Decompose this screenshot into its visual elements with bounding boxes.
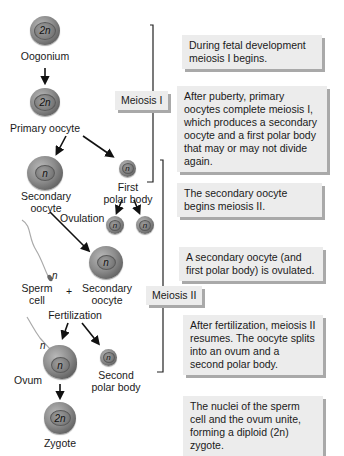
second-polar-body-label: Second polar body (88, 369, 144, 393)
sperm-ploidy: n (52, 270, 58, 282)
polar-body-b-cell: n (136, 216, 154, 234)
ploidy-label: n (57, 360, 63, 371)
meiosis-2-tag: Meiosis II (146, 286, 202, 305)
polar-body-a-cell: n (106, 216, 124, 234)
ovum-cell: n (43, 345, 77, 379)
second-polar-body-nucleus: n (103, 352, 115, 363)
meiosis-1-tag: Meiosis I (115, 91, 168, 110)
label-line: Secondary (18, 190, 74, 202)
description-after-fertilization: After fertilization, meiosis II resumes.… (183, 315, 323, 375)
description-fetal-development: During fetal development meiosis I begin… (182, 35, 322, 69)
oogonium-cell: 2n (30, 16, 60, 45)
ovulated-secondary-oocyte-nucleus: n (97, 255, 116, 270)
ploidy-label: n (103, 257, 109, 268)
primary-oocyte-nucleus: 2n (34, 94, 56, 111)
polar-body-a-nucleus: n (109, 220, 121, 231)
ovulated-secondary-oocyte-label: Secondary oocyte (80, 282, 134, 306)
label-line: cell (20, 294, 54, 306)
ploidy-label: n (106, 353, 110, 362)
description-nuclei-unite: The nuclei of the sperm cell and the ovu… (183, 396, 323, 456)
ploidy-label: 2n (39, 97, 50, 108)
zygote-cell: 2n (44, 402, 76, 434)
plus-sign: + (66, 285, 72, 297)
description-secondary-begins-meiosis-2: The secondary oocyte begins meiosis II. (177, 183, 322, 217)
description-after-puberty: After puberty, primary oocytes complete … (177, 86, 327, 172)
label-line: oocyte (80, 294, 134, 306)
primary-oocyte-label: Primary oocyte (5, 122, 85, 134)
secondary-oocyte-nucleus: n (35, 165, 55, 181)
oogonium-label: Oogonium (17, 50, 73, 62)
first-polar-body-cell: n (119, 160, 136, 177)
secondary-oocyte-label: Secondary oocyte (18, 190, 74, 214)
fertilization-label: Fertilization (47, 309, 103, 321)
ovulation-label: Ovulation (60, 212, 106, 224)
ploidy-label: n (113, 221, 117, 230)
label-line: First (100, 181, 156, 193)
ovum-sperm-ploidy: n (40, 340, 46, 352)
primary-oocyte-cell: 2n (30, 88, 60, 116)
label-line: Secondary (80, 282, 134, 294)
ploidy-label: 2n (54, 413, 65, 424)
zygote-label: Zygote (40, 437, 80, 449)
first-polar-body-nucleus: n (122, 163, 134, 174)
ploidy-label: 2n (39, 25, 50, 36)
description-ovulated: A secondary oocyte (and first polar body… (179, 247, 323, 281)
sperm-cell-label: Sperm cell (20, 282, 54, 306)
oogonium-nucleus: 2n (34, 22, 56, 40)
label-line: Sperm (20, 282, 54, 294)
label-line: polar body (100, 193, 156, 205)
ovum-label: Ovum (14, 374, 42, 386)
ploidy-label: n (125, 164, 129, 173)
first-polar-body-label: First polar body (100, 181, 156, 205)
zygote-nucleus: 2n (50, 410, 71, 426)
ovum-nucleus: n (51, 357, 70, 373)
label-line: Second (88, 369, 144, 381)
ploidy-label: n (143, 221, 147, 230)
secondary-oocyte-cell: n (27, 156, 63, 190)
label-line: polar body (88, 381, 144, 393)
ploidy-label: n (42, 168, 48, 179)
polar-body-b-nucleus: n (139, 220, 151, 231)
second-polar-body-cell: n (100, 349, 117, 366)
ovulated-secondary-oocyte-cell: n (89, 246, 123, 279)
